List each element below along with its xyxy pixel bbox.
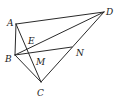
geometry-diagram: A B C D E M N <box>0 0 116 108</box>
point-label-D: D <box>105 7 113 17</box>
point-label-N: N <box>75 48 85 58</box>
segments-group <box>15 12 104 82</box>
point-label-B: B <box>4 54 12 64</box>
point-label-E: E <box>27 36 35 46</box>
point-label-M: M <box>35 57 46 67</box>
segment-AB <box>15 24 16 55</box>
point-label-A: A <box>6 18 14 28</box>
segment-CD <box>41 12 104 82</box>
point-label-C: C <box>37 88 44 98</box>
